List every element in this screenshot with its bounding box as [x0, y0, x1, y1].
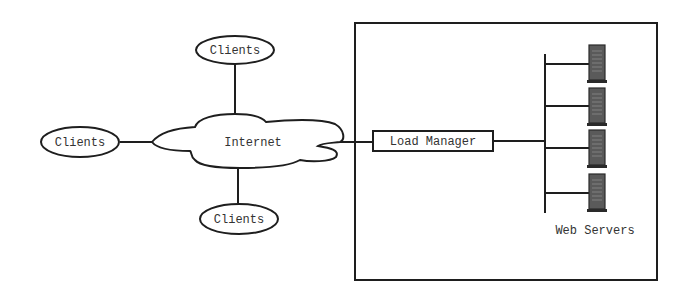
server-tower-icon — [587, 174, 607, 212]
web-servers-label: Web Servers — [555, 224, 634, 238]
server-4 — [587, 174, 607, 212]
server-tower-icon — [587, 88, 607, 126]
clients-top-node: Clients — [196, 36, 274, 64]
load-manager-node: Load Manager — [373, 131, 493, 151]
clients-bottom-label: Clients — [214, 213, 264, 227]
clients-top-label: Clients — [210, 44, 260, 58]
server-tower-icon — [587, 130, 607, 168]
internet-node: Internet — [152, 114, 343, 168]
internet-label: Internet — [224, 136, 282, 150]
server-3 — [587, 130, 607, 168]
server-1 — [587, 45, 607, 83]
clients-left-label: Clients — [55, 136, 105, 150]
load-manager-label: Load Manager — [390, 135, 476, 149]
server-tower-icon — [587, 45, 607, 83]
network-diagram: Internet Clients Clients Clients Load Ma… — [0, 0, 695, 299]
clients-bottom-node: Clients — [200, 204, 278, 234]
server-2 — [587, 88, 607, 126]
clients-left-node: Clients — [41, 127, 119, 157]
